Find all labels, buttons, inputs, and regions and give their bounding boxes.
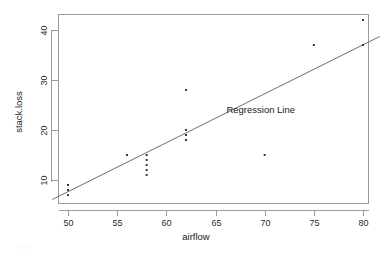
x-tick-label: 65: [211, 218, 221, 228]
y-tick-label: 20: [39, 125, 49, 135]
data-point: [185, 89, 187, 91]
data-point: [126, 154, 128, 156]
scatter-plot-figure: 50556065707580 airflow 10203040 stack.lo…: [0, 0, 389, 255]
annotation-group: Regression Line: [226, 104, 295, 115]
data-point: [67, 194, 69, 196]
data-point: [362, 19, 364, 21]
data-point: [185, 139, 187, 141]
corner-artifact: [18, 244, 31, 249]
data-point: [362, 44, 364, 46]
x-tick-label: 50: [63, 218, 73, 228]
data-point: [146, 174, 148, 176]
data-point: [185, 129, 187, 131]
x-tick-label: 70: [260, 218, 270, 228]
y-tick-label: 40: [39, 25, 49, 35]
data-point: [146, 169, 148, 171]
data-point: [146, 154, 148, 156]
data-point: [146, 159, 148, 161]
data-point: [264, 154, 266, 156]
data-point: [67, 189, 69, 191]
x-tick-label: 80: [358, 218, 368, 228]
x-tick-label: 75: [309, 218, 319, 228]
data-point: [146, 164, 148, 166]
x-axis-title: airflow: [182, 231, 210, 242]
x-tick-label: 60: [161, 218, 171, 228]
y-axis-title: stack.loss: [13, 91, 24, 133]
data-point: [67, 184, 69, 186]
y-tick-label: 30: [39, 75, 49, 85]
y-tick-label: 10: [39, 175, 49, 185]
chart-canvas: 50556065707580 airflow 10203040 stack.lo…: [0, 0, 389, 255]
data-point: [185, 134, 187, 136]
regression-line-label: Regression Line: [226, 104, 295, 115]
x-tick-label: 55: [112, 218, 122, 228]
data-point: [313, 44, 315, 46]
